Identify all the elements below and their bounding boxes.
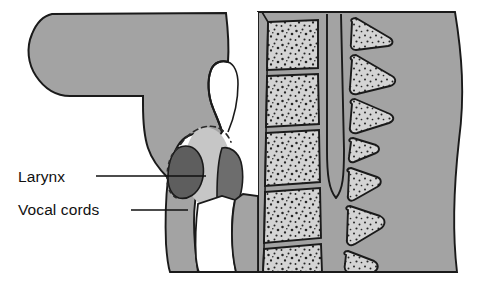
posterior-tracheal-wall — [232, 194, 258, 272]
vertebral-body — [264, 188, 321, 243]
vertebral-body — [263, 244, 322, 272]
anatomical-figure: Larynx Vocal cords — [0, 0, 497, 287]
vertebral-body — [266, 74, 319, 127]
label-larynx: Larynx — [18, 168, 65, 185]
vertebral-body — [265, 130, 320, 186]
vertebral-bodies — [262, 12, 322, 272]
anatomy-illustration: Larynx Vocal cords — [0, 0, 497, 287]
vertebral-body — [267, 20, 318, 70]
trachea-airway — [196, 196, 236, 272]
label-vocal-cords: Vocal cords — [18, 201, 99, 218]
